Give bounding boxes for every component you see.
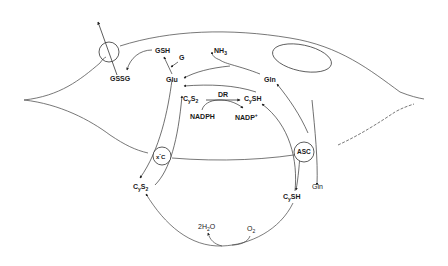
label-xc: x-C: [156, 152, 165, 160]
label-2h2o: 2H2O: [198, 223, 215, 232]
label-nadp: NADP+: [235, 113, 258, 121]
label-o2: O2: [247, 225, 255, 234]
label-dr: DR: [218, 91, 228, 98]
label-g: G: [179, 54, 184, 61]
diagram-lines: [0, 0, 448, 266]
label-asc: ASC: [297, 149, 311, 156]
label-gsh: GSH: [155, 47, 170, 54]
nucleus: [270, 39, 334, 77]
label-cysh-in: CySH: [244, 95, 262, 104]
label-nadph: NADPH: [190, 113, 215, 120]
diagram-canvas: GSH G GSSG NH3 Glu Gln CyS2 DR CySH NADP…: [0, 0, 448, 266]
label-cys2-in: CyS2: [183, 95, 198, 104]
label-gln-in: Gln: [264, 76, 276, 83]
label-cys2-out: CyS2: [133, 183, 148, 192]
label-gssg: GSSG: [110, 75, 130, 82]
label-gln-out: Gln: [312, 183, 323, 190]
label-cysh-out: CySH: [283, 193, 301, 202]
label-glu: Glu: [166, 76, 178, 83]
label-nh3: NH3: [214, 47, 227, 56]
